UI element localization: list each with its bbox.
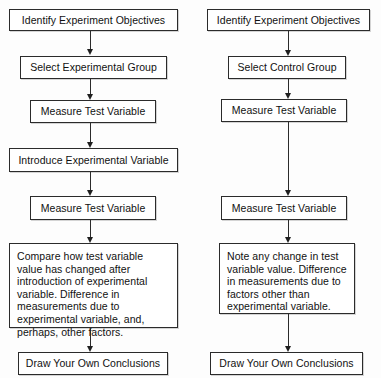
node-select-experimental-group: Select Experimental Group (20, 56, 167, 79)
arrow-l5-l6 (86, 220, 95, 243)
experimental-group-column: Identify Experiment Objectives Select Ex… (0, 0, 190, 378)
node-label: Select Experimental Group (26, 62, 161, 73)
arrow-r5-r6 (284, 314, 293, 352)
arrow-stem (288, 122, 289, 190)
arrow-l2-l3 (86, 79, 95, 100)
arrow-r1-r2 (284, 31, 293, 56)
node-label: Select Control Group (233, 62, 340, 73)
node-label: Introduce Experimental Variable (14, 155, 172, 166)
node-compare-analysis: Compare how test variable value has chan… (9, 243, 178, 328)
node-label: Measure Test Variable (37, 203, 150, 214)
node-label: Measure Test Variable (228, 105, 341, 116)
arrow-l4-l5 (86, 172, 95, 196)
arrow-stem (90, 123, 91, 142)
node-draw-conclusions-left: Draw Your Own Conclusions (18, 352, 168, 375)
node-label: Draw Your Own Conclusions (215, 358, 357, 369)
node-label: Note any change in test variable value. … (220, 244, 354, 319)
arrow-stem (288, 314, 289, 346)
arrow-r2-r3 (284, 79, 293, 99)
node-measure-test-variable-post: Measure Test Variable (30, 196, 156, 220)
node-label: Measure Test Variable (37, 106, 150, 117)
arrow-r4-r5 (284, 220, 293, 243)
arrow-r3-r4 (284, 122, 293, 196)
arrow-stem (90, 79, 91, 94)
arrow-stem (90, 220, 91, 237)
arrow-head (87, 49, 93, 55)
node-measure-test-variable-control-post: Measure Test Variable (221, 196, 347, 220)
node-select-control-group: Select Control Group (228, 56, 346, 79)
arrow-stem (90, 328, 91, 346)
node-label: Measure Test Variable (228, 203, 341, 214)
node-identify-experiment-objectives-left: Identify Experiment Objectives (9, 9, 178, 31)
node-label: Draw Your Own Conclusions (22, 358, 164, 369)
arrow-stem (288, 79, 289, 93)
arrow-stem (90, 31, 91, 49)
node-note-change-analysis: Note any change in test variable value. … (219, 243, 355, 314)
flowchart-canvas: Identify Experiment Objectives Select Ex… (0, 0, 381, 378)
arrow-l3-l4 (86, 123, 95, 148)
node-measure-test-variable-control-pre: Measure Test Variable (221, 99, 347, 122)
arrow-l1-l2 (86, 31, 95, 55)
arrow-stem (288, 220, 289, 237)
node-label: Identify Experiment Objectives (213, 15, 364, 26)
node-draw-conclusions-right: Draw Your Own Conclusions (210, 352, 363, 375)
node-identify-experiment-objectives-right: Identify Experiment Objectives (207, 9, 370, 31)
arrow-l6-l7 (86, 328, 95, 352)
arrow-stem (90, 172, 91, 190)
control-group-column: Identify Experiment Objectives Select Co… (190, 0, 381, 378)
node-introduce-experimental-variable: Introduce Experimental Variable (9, 148, 178, 172)
node-measure-test-variable-pre: Measure Test Variable (30, 100, 156, 123)
arrow-stem (288, 31, 289, 50)
node-label: Identify Experiment Objectives (18, 15, 169, 26)
